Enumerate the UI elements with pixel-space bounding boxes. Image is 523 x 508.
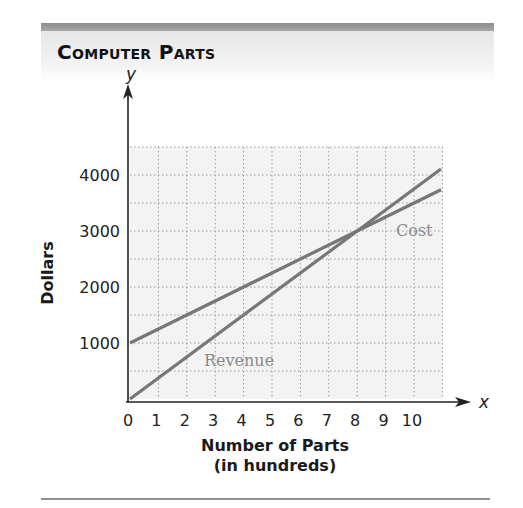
x-tick-label: 3 <box>208 411 218 430</box>
x-axis-label: Number of Parts (in hundreds) <box>190 436 360 476</box>
y-tick-label: 1000 <box>79 334 120 353</box>
grid-background <box>130 147 442 399</box>
x-tick-label: 6 <box>293 411 303 430</box>
y-axis-label: Dollars <box>38 241 57 304</box>
x-tick-label: 10 <box>402 411 422 430</box>
y-tick-label: 2000 <box>79 278 120 297</box>
x-axis-letter: x <box>478 392 490 412</box>
x-tick-label: 7 <box>322 411 332 430</box>
x-tick-label: 4 <box>237 411 247 430</box>
y-tick-label: 3000 <box>79 222 120 241</box>
x-tick-label: 0 <box>123 411 133 430</box>
chart-plot: yx0123456789101000200030004000CostRevenu… <box>0 0 523 508</box>
x-axis-label-line2: (in hundreds) <box>190 456 360 476</box>
footer-rule <box>41 498 490 500</box>
y-tick-label: 4000 <box>79 166 120 185</box>
series-label-cost: Cost <box>396 221 433 240</box>
series-label-revenue: Revenue <box>204 351 274 370</box>
y-axis-letter: y <box>125 64 137 84</box>
x-tick-label: 2 <box>180 411 190 430</box>
x-tick-label: 9 <box>379 411 389 430</box>
x-tick-label: 8 <box>350 411 360 430</box>
x-tick-label: 5 <box>265 411 275 430</box>
x-axis-label-line1: Number of Parts <box>190 436 360 456</box>
x-tick-label: 1 <box>151 411 161 430</box>
